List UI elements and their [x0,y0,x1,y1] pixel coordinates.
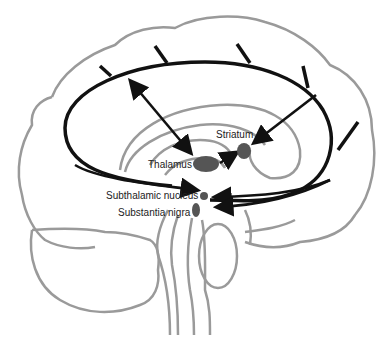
label-thalamus: Thalamus [148,160,192,170]
brain-diagram: Striatum Thalamus Subthalamic nucleus Su… [0,0,383,361]
brain-outline-drawing [0,0,383,361]
label-substantia-nigra: Substantia nigra [118,208,190,218]
label-striatum: Striatum [216,130,253,140]
striatum-nucleus [237,143,251,159]
substantia-nigra-dot [192,203,200,217]
cortex-outline [19,17,374,335]
thalamus-nucleus [193,156,219,172]
label-subthalamic-nucleus: Subthalamic nucleus [106,191,198,201]
subthalamic-nucleus-dot [200,192,208,200]
